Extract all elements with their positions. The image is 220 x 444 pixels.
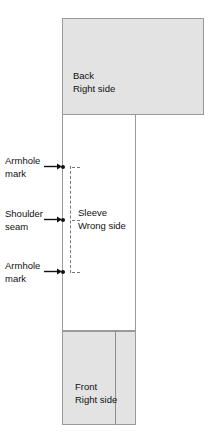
pattern-piece-back [62, 18, 204, 115]
pattern-piece-sleeve-label: Sleeve Wrong side [78, 207, 126, 232]
pattern-piece-back-label: Back Right side [73, 70, 115, 95]
sewing-pattern-diagram: Back Right side Sleeve Wrong side Front … [0, 0, 220, 444]
marker-armhole-mark-bottom-dot [61, 270, 65, 274]
marker-armhole-mark-top-dot [61, 165, 65, 169]
marker-armhole-mark-bottom-label: Armhole mark [5, 260, 40, 285]
marker-armhole-mark-top-tick [72, 167, 80, 168]
arrow-right-icon [44, 268, 62, 275]
pattern-piece-front [62, 331, 136, 425]
seam-guide-dashed-line [70, 166, 71, 273]
marker-shoulder-seam-tick [72, 220, 80, 221]
marker-armhole-mark-top-label: Armhole mark [5, 155, 40, 180]
pattern-piece-front-label: Front Right side [75, 381, 117, 406]
marker-shoulder-seam-label: Shoulder seam [5, 208, 43, 233]
arrow-right-icon [44, 216, 62, 223]
marker-armhole-mark-bottom-tick [72, 272, 80, 273]
front-piece-seam-divider [115, 331, 116, 425]
arrow-right-icon [44, 163, 62, 170]
marker-shoulder-seam-dot [61, 218, 65, 222]
